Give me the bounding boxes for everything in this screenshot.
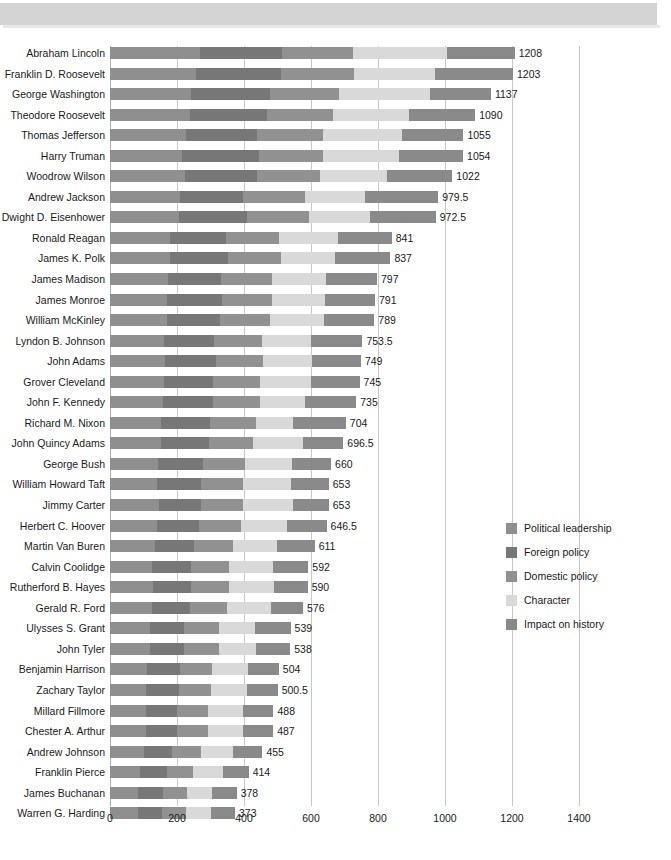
bar-segment-impact-on-history xyxy=(312,355,361,367)
stacked-bar[interactable] xyxy=(110,232,392,244)
bar-value-label: 979.5 xyxy=(442,190,468,204)
stacked-bar[interactable] xyxy=(110,68,513,80)
stacked-bar[interactable] xyxy=(110,684,278,696)
legend-item[interactable]: Foreign policy xyxy=(506,540,656,564)
stacked-bar[interactable] xyxy=(110,355,361,367)
stacked-bar[interactable] xyxy=(110,705,273,717)
stacked-bar[interactable] xyxy=(110,520,327,532)
stacked-bar[interactable] xyxy=(110,478,329,490)
stacked-bar[interactable] xyxy=(110,294,375,306)
stacked-bar[interactable] xyxy=(110,252,390,264)
stacked-bar[interactable] xyxy=(110,663,279,675)
bar-segment-political-leadership xyxy=(110,725,146,737)
legend-item[interactable]: Character xyxy=(506,588,656,612)
row-label: Gerald R. Ford xyxy=(0,601,105,615)
bar-segment-foreign-policy xyxy=(164,376,213,388)
chart-row: Chester A. Arthur487 xyxy=(0,724,671,745)
stacked-bar[interactable] xyxy=(110,540,315,552)
stacked-bar[interactable] xyxy=(110,437,343,449)
chart-row: Richard M. Nixon704 xyxy=(0,416,671,437)
stacked-bar[interactable] xyxy=(110,191,438,203)
stacked-bar[interactable] xyxy=(110,787,237,799)
row-label: George Washington xyxy=(0,87,105,101)
bar-segment-character xyxy=(260,396,306,408)
bar-segment-political-leadership xyxy=(110,643,150,655)
bar-segment-impact-on-history xyxy=(223,766,249,778)
bar-segment-political-leadership xyxy=(110,150,182,162)
bar-segment-character xyxy=(353,47,447,59)
bar-segment-character xyxy=(208,725,243,737)
stacked-bar[interactable] xyxy=(110,643,290,655)
stacked-bar[interactable] xyxy=(110,766,249,778)
stacked-bar[interactable] xyxy=(110,602,303,614)
bar-segment-political-leadership xyxy=(110,766,140,778)
bar-segment-character xyxy=(211,684,246,696)
stacked-bar[interactable] xyxy=(110,376,360,388)
bar-value-label: 1137 xyxy=(495,87,518,101)
stacked-bar[interactable] xyxy=(110,622,291,634)
legend-swatch-icon xyxy=(506,571,517,582)
bar-segment-domestic-policy xyxy=(259,150,323,162)
stacked-bar[interactable] xyxy=(110,499,329,511)
bar-segment-impact-on-history xyxy=(430,88,491,100)
stacked-bar[interactable] xyxy=(110,211,436,223)
bar-segment-impact-on-history xyxy=(255,622,290,634)
bar-value-label: 611 xyxy=(319,539,336,553)
stacked-bar[interactable] xyxy=(110,561,308,573)
bar-segment-character xyxy=(227,602,272,614)
stacked-bar[interactable] xyxy=(110,88,491,100)
stacked-bar[interactable] xyxy=(110,47,515,59)
stacked-bar[interactable] xyxy=(110,109,475,121)
bar-segment-character xyxy=(260,376,311,388)
top-band-shadow xyxy=(3,25,660,28)
legend-swatch-icon xyxy=(506,595,517,606)
bar-segment-political-leadership xyxy=(110,109,190,121)
bar-segment-character xyxy=(193,766,222,778)
bar-segment-impact-on-history xyxy=(212,787,236,799)
stacked-bar[interactable] xyxy=(110,170,452,182)
bar-segment-political-leadership xyxy=(110,417,161,429)
chart-row: Franklin D. Roosevelt1203 xyxy=(0,67,671,88)
bar-segment-character xyxy=(305,191,365,203)
stacked-bar[interactable] xyxy=(110,746,262,758)
stacked-bar[interactable] xyxy=(110,150,463,162)
legend-label: Foreign policy xyxy=(524,546,589,558)
bar-value-label: 749 xyxy=(365,354,383,368)
bar-value-label: 539 xyxy=(295,621,313,635)
bar-segment-political-leadership xyxy=(110,68,196,80)
legend-item[interactable]: Impact on history xyxy=(506,612,656,636)
chart-row: Ronald Reagan841 xyxy=(0,231,671,252)
bar-segment-foreign-policy xyxy=(190,109,266,121)
chart-row: Benjamin Harrison504 xyxy=(0,662,671,683)
stacked-bar[interactable] xyxy=(110,273,377,285)
bar-segment-impact-on-history xyxy=(293,499,329,511)
legend-item[interactable]: Domestic policy xyxy=(506,564,656,588)
chart-row: James K. Polk837 xyxy=(0,251,671,272)
bar-segment-character xyxy=(229,561,273,573)
legend-item[interactable]: Political leadership xyxy=(506,516,656,540)
stacked-bar[interactable] xyxy=(110,725,273,737)
bar-value-label: 797 xyxy=(381,272,399,286)
stacked-bar[interactable] xyxy=(110,581,308,593)
stacked-bar[interactable] xyxy=(110,396,356,408)
bar-segment-domestic-policy xyxy=(220,314,271,326)
bar-segment-impact-on-history xyxy=(305,396,356,408)
stacked-bar[interactable] xyxy=(110,314,374,326)
stacked-bar[interactable] xyxy=(110,129,463,141)
bar-segment-impact-on-history xyxy=(256,643,291,655)
chart-row: Theodore Roosevelt1090 xyxy=(0,108,671,129)
bar-segment-impact-on-history xyxy=(409,109,475,121)
bar-segment-impact-on-history xyxy=(311,376,359,388)
bar-segment-political-leadership xyxy=(110,273,168,285)
row-label: James K. Polk xyxy=(0,251,105,265)
bar-segment-foreign-policy xyxy=(152,561,191,573)
bar-segment-political-leadership xyxy=(110,232,170,244)
bar-value-label: 653 xyxy=(333,477,351,491)
bar-segment-impact-on-history xyxy=(277,540,314,552)
bar-value-label: 791 xyxy=(379,293,397,307)
bar-segment-domestic-policy xyxy=(282,47,353,59)
stacked-bar[interactable] xyxy=(110,335,362,347)
stacked-bar[interactable] xyxy=(110,458,331,470)
bar-value-label: 789 xyxy=(378,313,396,327)
stacked-bar[interactable] xyxy=(110,417,346,429)
